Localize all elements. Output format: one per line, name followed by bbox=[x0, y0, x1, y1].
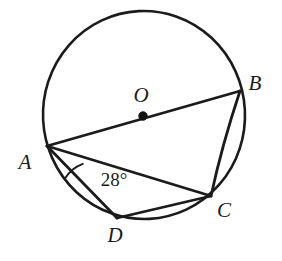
label-angle-28-degrees: 28° bbox=[101, 169, 128, 190]
geometry-figure: O A B C D 28° bbox=[0, 0, 282, 261]
label-vertex-c: C bbox=[217, 198, 232, 222]
geometry-canvas: O A B C D 28° bbox=[0, 0, 282, 261]
label-vertex-b: B bbox=[249, 71, 262, 95]
label-center-o: O bbox=[133, 83, 148, 107]
label-vertex-d: D bbox=[106, 223, 122, 247]
segment-chord-b-c bbox=[211, 91, 240, 196]
segment-chord-d-c bbox=[117, 196, 211, 218]
center-point-dot bbox=[139, 112, 147, 120]
label-vertex-a: A bbox=[17, 150, 32, 174]
